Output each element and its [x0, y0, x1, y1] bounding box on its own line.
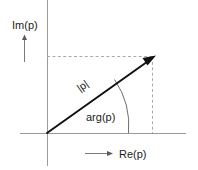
argand-diagram-canvas: Im(p) Re(p) |p| arg(p)	[0, 0, 198, 170]
argand-diagram-figure: Im(p) Re(p) |p| arg(p)	[0, 0, 198, 170]
real-axis-label: Re(p)	[119, 148, 147, 160]
right-arrow-icon	[107, 151, 113, 156]
argument-label: arg(p)	[86, 111, 115, 123]
modulus-label: |p|	[74, 77, 90, 93]
imaginary-axis-label: Im(p)	[12, 19, 38, 31]
argument-arc	[115, 80, 129, 134]
up-arrow-icon	[22, 35, 27, 41]
